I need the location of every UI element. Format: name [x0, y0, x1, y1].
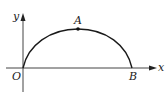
point-b-label: B [128, 70, 137, 83]
origin-label: O [12, 70, 21, 83]
x-axis-arrow-icon [149, 66, 157, 71]
curve-arc [23, 29, 132, 68]
diagram-canvas: y x O A B [0, 0, 165, 95]
point-a-label: A [73, 14, 82, 27]
x-axis-label: x [158, 61, 165, 74]
y-axis-label: y [12, 10, 20, 23]
point-a-marker [76, 27, 80, 31]
y-axis-arrow-icon [21, 13, 26, 21]
